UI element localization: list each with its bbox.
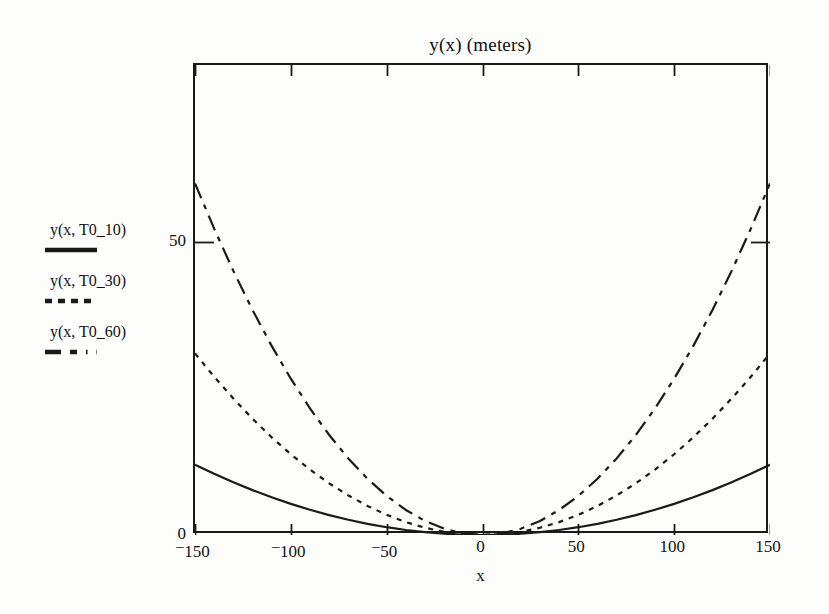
legend-line-swatch-solid	[44, 246, 98, 254]
minus-sign: –	[372, 537, 380, 556]
plot-area	[193, 63, 768, 533]
series-line-dashdot	[195, 183, 770, 535]
x-axis-tick-marks-bottom	[196, 524, 771, 535]
chart-legend: y(x, T0_10)y(x, T0_30)y(x, T0_60)	[36, 220, 171, 373]
x-axis-label: x	[193, 566, 768, 586]
y-tick-label: 0	[178, 524, 187, 543]
x-tick-label: 150	[755, 537, 781, 556]
legend-line-swatch-dashdot	[44, 348, 98, 356]
x-tick-label: –100	[272, 537, 306, 561]
chart-title: y(x) (meters)	[193, 33, 768, 57]
x-tick-label: –50	[372, 537, 397, 561]
legend-entry[interactable]: y(x, T0_30)	[36, 271, 171, 322]
x-tick-label: 0	[476, 537, 485, 556]
legend-label: y(x, T0_10)	[50, 220, 126, 239]
chart-figure: y(x) (meters) –150–100–50050100150 050 x…	[0, 0, 829, 614]
y-tick-label: 50	[169, 230, 186, 249]
series-line-solid	[195, 465, 770, 535]
x-tick-label: 50	[568, 537, 585, 556]
legend-line-swatch-dotted	[44, 297, 98, 305]
x-axis-tick-marks-top	[196, 65, 771, 76]
plot-canvas	[195, 65, 770, 535]
data-series-group	[195, 183, 770, 535]
minus-sign: –	[272, 537, 280, 556]
legend-label: y(x, T0_30)	[50, 271, 126, 290]
x-tick-label: 100	[659, 537, 685, 556]
series-line-dotted	[195, 353, 770, 535]
legend-label: y(x, T0_60)	[50, 322, 126, 341]
legend-entry[interactable]: y(x, T0_10)	[36, 220, 171, 271]
legend-entry[interactable]: y(x, T0_60)	[36, 322, 171, 373]
